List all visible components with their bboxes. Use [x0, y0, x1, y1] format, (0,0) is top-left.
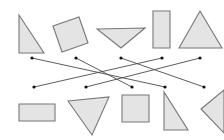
bottom-dot	[84, 85, 87, 88]
matching-diagram	[0, 0, 224, 140]
bottom-dot	[130, 85, 133, 88]
bottom-shape-square	[122, 95, 149, 122]
top-dot	[119, 56, 122, 59]
bottom-dot	[202, 85, 205, 88]
bottom-dot	[163, 85, 166, 88]
top-shape-inverted-triangle	[97, 28, 145, 48]
top-shape-rotated-square	[53, 17, 88, 52]
bottom-shapes-row	[19, 90, 224, 135]
connection-lines	[32, 58, 204, 87]
top-shapes-row	[19, 11, 222, 53]
top-dot	[160, 56, 163, 59]
bottom-shape-wide-rectangle	[19, 104, 55, 121]
bottom-shape-down-triangle	[68, 97, 109, 135]
bottom-shape-left-pointing-triangle	[201, 90, 224, 133]
top-dot	[198, 56, 201, 59]
top-shape-tall-rectangle	[153, 11, 170, 48]
top-dot	[74, 56, 77, 59]
connection-line	[121, 58, 204, 87]
top-dot	[30, 56, 33, 59]
connection-dots	[30, 56, 205, 88]
bottom-shape-right-triangle	[164, 92, 188, 130]
top-shape-isosceles-triangle	[179, 11, 222, 48]
top-shape-right-triangle	[19, 15, 44, 53]
bottom-dot	[32, 85, 35, 88]
